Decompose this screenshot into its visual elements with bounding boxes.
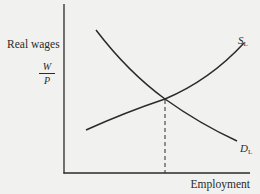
demand-subscript: L	[248, 148, 252, 156]
labor-market-chart	[0, 0, 260, 194]
demand-curve-label: DL	[240, 142, 252, 156]
real-wage-fraction: W P	[39, 61, 55, 86]
x-axis-label: Employment	[191, 178, 250, 190]
wage-symbol: W	[39, 61, 55, 74]
supply-curve-label: SL	[238, 34, 248, 48]
demand-curve	[96, 30, 237, 141]
demand-letter: D	[240, 142, 248, 154]
y-axis-label: Real wages	[7, 38, 60, 50]
supply-subscript: L	[244, 40, 248, 48]
price-symbol: P	[39, 74, 55, 86]
